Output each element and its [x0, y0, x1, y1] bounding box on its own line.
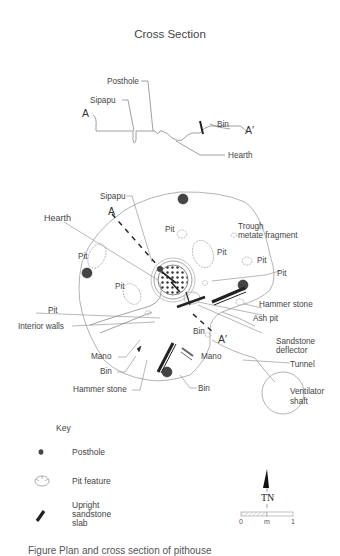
key-label-posthole: Posthole — [72, 448, 105, 458]
plan-label-pit: Pit — [115, 282, 125, 291]
scale-min: 0 — [239, 518, 243, 525]
plan-label-pit-lower: Pit — [48, 306, 58, 315]
plan-label-trough-2: metate fragment — [238, 231, 298, 240]
plan-label-sandstone-2: deflector — [276, 346, 307, 355]
plan-label-pit: Pit — [257, 256, 267, 265]
true-north-label: TN — [261, 492, 274, 503]
plan-label-pit: Pit — [78, 252, 88, 261]
plan-label-mano: Mano — [91, 352, 111, 361]
plan-label-sipapu: Sipapu — [100, 192, 126, 201]
figure-caption: Figure Plan and cross section of pithous… — [28, 545, 211, 556]
xs-label-a-prime: A′ — [245, 126, 254, 135]
sandstone-slab-icon — [37, 511, 44, 521]
cross-section-profile — [93, 81, 248, 155]
plan-label-pit: Pit — [277, 269, 287, 278]
key-label-pit-feature: Pit feature — [72, 477, 111, 487]
plan-label-a: A — [108, 207, 115, 216]
scale-bar — [241, 512, 293, 516]
plan-label-sandstone-1: Sandstone — [276, 337, 315, 346]
plan-label-bin-bottom: Bin — [198, 384, 210, 393]
pit-feature-icon — [35, 476, 49, 486]
plan-label-hearth: Hearth — [44, 214, 71, 223]
key-title: Key — [56, 423, 71, 433]
plan-label-hammer-stone-right: Hammer stone — [259, 300, 313, 309]
plan-label-tunnel: Tunnel — [290, 360, 315, 369]
plan-label-trough-1: Trough — [238, 222, 264, 231]
xs-label-posthole: Posthole — [107, 77, 139, 86]
plan-label-ash-pit: Ash pit — [253, 314, 278, 323]
xs-label-bin: Bin — [217, 120, 229, 129]
plan-label-mano-right: Mano — [201, 352, 221, 361]
key-label-slab-3: slab — [72, 519, 88, 529]
posthole-icon — [39, 449, 44, 455]
north-arrow-icon — [263, 469, 269, 488]
plan-label-ventilator-2: shaft — [290, 397, 308, 406]
plan-label-hammer-stone: Hammer stone — [73, 385, 127, 394]
plan-label-ventilator-1: Ventilator — [290, 387, 324, 396]
plan-label-a-prime: A′ — [218, 335, 227, 344]
scale-max: 1 — [291, 518, 295, 525]
plan-label-bin-center: Bin — [193, 327, 205, 336]
plan-label-pit: Pit — [165, 225, 175, 234]
xs-label-sipapu: Sipapu — [90, 96, 116, 105]
plan-label-pit: Pit — [217, 248, 227, 257]
xs-label-a: A — [82, 109, 89, 118]
scale-unit: m — [264, 518, 270, 525]
plan-label-bin: Bin — [100, 367, 112, 376]
xs-label-hearth: Hearth — [228, 151, 253, 160]
plan-label-interior-walls: Interior walls — [18, 322, 64, 331]
